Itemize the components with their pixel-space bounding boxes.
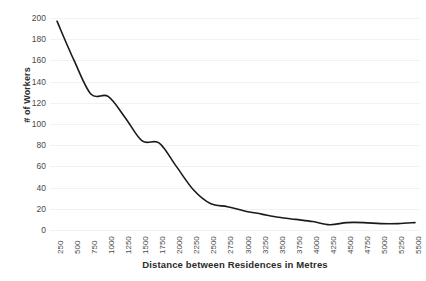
y-axis-tick-label: 160 <box>16 56 46 65</box>
y-axis-tick-label: 60 <box>16 162 46 171</box>
x-axis-tick-label: 500 <box>74 241 82 254</box>
x-axis-tick-label: 1250 <box>125 236 133 254</box>
x-axis-tick-label: 2500 <box>210 236 218 254</box>
x-axis-tick-label: 3000 <box>245 236 253 254</box>
y-axis-tick-label: 0 <box>16 226 46 235</box>
x-axis-tick-label: 1500 <box>142 236 150 254</box>
x-axis-tick-label: 5500 <box>415 236 423 254</box>
y-axis-tick-label: 100 <box>16 120 46 129</box>
x-axis-tick-labels: 2505007501000125015001750200022502500275… <box>50 232 420 256</box>
series-path <box>57 21 415 225</box>
y-axis-tick-label: 180 <box>16 35 46 44</box>
x-axis-tick-label: 2250 <box>193 236 201 254</box>
x-axis-title: Distance between Residences in Metres <box>50 259 420 270</box>
x-axis-tick-label: 750 <box>91 241 99 254</box>
x-axis-tick-label: 3750 <box>296 236 304 254</box>
x-axis-tick-label: 4250 <box>330 236 338 254</box>
x-axis-tick-label: 2000 <box>176 236 184 254</box>
x-axis-tick-label: 3500 <box>279 236 287 254</box>
y-axis-tick-label: 140 <box>16 77 46 86</box>
y-axis-tick-label: 200 <box>16 14 46 23</box>
x-axis-tick-label: 1000 <box>108 236 116 254</box>
plot-area <box>50 18 420 230</box>
x-axis-tick-label: 2750 <box>227 236 235 254</box>
gridline <box>50 230 420 231</box>
line-chart: # of Workers 200180160140120100806040200… <box>0 0 426 281</box>
y-axis-tick-labels: 200180160140120100806040200 <box>16 18 46 230</box>
y-axis-tick-label: 20 <box>16 205 46 214</box>
x-axis-tick-label: 4500 <box>347 236 355 254</box>
data-series-line <box>50 18 420 230</box>
y-axis-tick-label: 120 <box>16 99 46 108</box>
x-axis-tick-label: 4750 <box>364 236 372 254</box>
y-axis-tick-label: 40 <box>16 183 46 192</box>
x-axis-tick-label: 3250 <box>262 236 270 254</box>
x-axis-tick-label: 1750 <box>159 236 167 254</box>
y-axis-tick-label: 80 <box>16 141 46 150</box>
x-axis-tick-label: 5250 <box>398 236 406 254</box>
x-axis-tick-label: 250 <box>57 241 65 254</box>
x-axis-tick-label: 5000 <box>381 236 389 254</box>
x-axis-tick-label: 4000 <box>313 236 321 254</box>
